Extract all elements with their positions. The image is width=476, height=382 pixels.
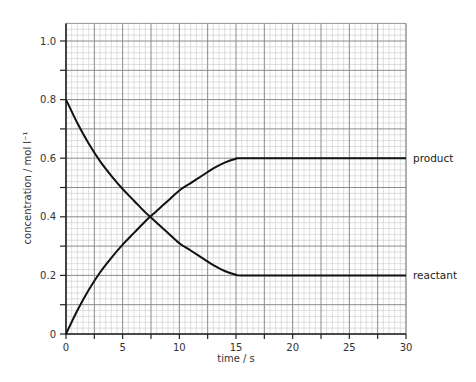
x-tick-label: 15 bbox=[230, 342, 243, 353]
x-tick-label: 25 bbox=[343, 342, 356, 353]
x-tick-labels: 051015202530 bbox=[63, 342, 413, 353]
y-tick-label: 0.6 bbox=[40, 153, 56, 164]
product-label: product bbox=[413, 152, 453, 164]
y-tick-labels: 00.20.40.60.81.0 bbox=[40, 36, 56, 340]
x-tick-label: 30 bbox=[400, 342, 413, 353]
y-tick-label: 0.4 bbox=[40, 211, 56, 222]
x-tick-label: 20 bbox=[286, 342, 299, 353]
tick-marks bbox=[60, 41, 406, 339]
y-axis-title: concentration / mol l⁻¹ bbox=[22, 132, 33, 245]
reactant-label: reactant bbox=[413, 269, 457, 281]
x-tick-label: 0 bbox=[63, 342, 69, 353]
x-tick-label: 5 bbox=[119, 342, 125, 353]
series-labels: productreactant bbox=[413, 152, 457, 281]
y-tick-label: 0.2 bbox=[40, 270, 56, 281]
y-tick-label: 0 bbox=[50, 329, 56, 340]
concentration-time-chart: 051015202530 00.20.40.60.81.0 productrea… bbox=[0, 0, 476, 382]
x-axis-title: time / s bbox=[217, 353, 255, 364]
y-tick-label: 1.0 bbox=[40, 36, 56, 47]
y-tick-label: 0.8 bbox=[40, 94, 56, 105]
x-tick-label: 10 bbox=[173, 342, 186, 353]
